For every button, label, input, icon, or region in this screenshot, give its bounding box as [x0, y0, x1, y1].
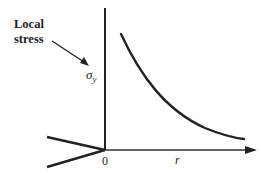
stress-distribution-diagram: Local stress σy 0 r — [0, 0, 261, 173]
sigma-subscript: y — [92, 74, 96, 84]
x-axis-label: r — [175, 154, 180, 166]
stress-curve — [121, 34, 244, 139]
crack-upper-face — [47, 137, 105, 150]
local-stress-label-line2: stress — [14, 32, 44, 47]
local-stress-label-line1: Local — [14, 17, 44, 32]
crack-lower-face — [47, 150, 105, 167]
annotation-arrowhead-icon — [80, 57, 89, 66]
annotation-arrow-line — [52, 41, 84, 62]
local-stress-label: Local stress — [14, 17, 44, 47]
y-axis-label: σy — [86, 68, 96, 84]
origin-label: 0 — [102, 155, 108, 167]
x-axis-arrowhead-icon — [245, 146, 257, 154]
